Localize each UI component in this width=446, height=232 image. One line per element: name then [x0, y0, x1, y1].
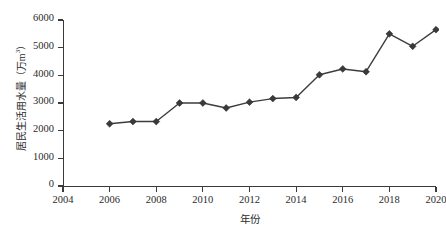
x-axis-tick: 2012: [249, 187, 250, 192]
x-axis-tick: 2016: [342, 187, 343, 192]
series-line: [110, 30, 436, 124]
x-axis-tick-label: 2014: [286, 194, 307, 205]
y-axis-title-text: 居民生活用水量（万m: [16, 53, 27, 151]
data-point: [363, 68, 370, 75]
data-point: [199, 100, 206, 107]
data-point: [409, 43, 416, 50]
data-point: [293, 94, 300, 101]
x-axis-tick-label: 2006: [99, 194, 120, 205]
y-axis-line: [63, 20, 64, 187]
y-axis-tick: 2000: [58, 130, 63, 131]
data-point: [246, 99, 253, 106]
x-axis-tick: 2020: [435, 187, 436, 192]
x-axis-tick-label: 2008: [146, 194, 167, 205]
y-axis-tick: 1000: [58, 158, 63, 159]
data-point: [130, 118, 137, 125]
x-axis-tick-label: 2004: [52, 194, 73, 205]
x-axis-tick-label: 2018: [379, 194, 400, 205]
data-point: [223, 105, 230, 112]
y-axis-tick-label: 4000: [33, 68, 54, 79]
y-axis-title-tail: ）: [16, 40, 27, 50]
x-axis-tick: 2008: [156, 187, 157, 192]
data-point: [176, 100, 183, 107]
y-axis-tick-label: 1000: [33, 151, 54, 162]
data-point: [269, 95, 276, 102]
x-axis-tick-label: 2016: [332, 194, 353, 205]
y-axis-tick-label: 6000: [33, 12, 54, 23]
data-point: [386, 30, 393, 37]
x-axis-tick-label: 2020: [425, 194, 446, 205]
y-axis-unit-exponent: 3: [14, 50, 22, 54]
x-axis-tick: 2004: [62, 187, 63, 192]
y-axis-tick-label: 0: [49, 178, 54, 189]
x-axis-tick-label: 2010: [192, 194, 213, 205]
data-point: [339, 66, 346, 73]
x-axis-tick: 2006: [109, 187, 110, 192]
data-point: [106, 120, 113, 127]
y-axis-tick-label: 2000: [33, 123, 54, 134]
y-axis-title: 居民生活用水量（万m3）: [13, 8, 28, 184]
y-axis-tick: 3000: [58, 102, 63, 103]
x-axis-tick-label: 2012: [239, 194, 260, 205]
x-axis-tick: 2014: [296, 187, 297, 192]
y-axis-tick: 6000: [58, 19, 63, 20]
x-axis-title: 年份: [63, 211, 436, 226]
data-point: [433, 26, 439, 33]
data-point: [316, 71, 323, 78]
y-axis-tick-label: 3000: [33, 95, 54, 106]
y-axis-tick: 5000: [58, 47, 63, 48]
series-markers: [106, 26, 439, 127]
y-axis-tick-label: 5000: [33, 40, 54, 51]
y-axis-tick: 4000: [58, 75, 63, 76]
data-point: [153, 118, 160, 125]
x-axis-tick: 2018: [389, 187, 390, 192]
x-axis-tick: 2010: [202, 187, 203, 192]
